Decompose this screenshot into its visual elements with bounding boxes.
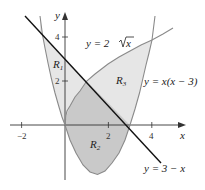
sqrt-radicand: x	[125, 37, 131, 49]
x-tick-label-neg2: −2	[17, 131, 27, 141]
y-tick-label-4: 4	[55, 32, 60, 42]
x-tick-label-4: 4	[149, 131, 154, 141]
y-axis-arrow	[62, 12, 68, 20]
sqrt-curve-label: y = 2	[85, 37, 110, 49]
parabola-label: y = x(x − 3)	[143, 75, 198, 88]
y-axis-label: y	[54, 9, 60, 21]
x-tick-label-2: 2	[106, 131, 111, 141]
y-tick-label-2: 2	[55, 76, 60, 86]
x-axis-arrow	[178, 122, 186, 128]
line-label: y = 3 − x	[143, 162, 185, 174]
x-axis-label: x	[179, 129, 185, 141]
diagram-canvas: −2 2 4 2 4 x y R1 R2 R3 y = 2 x y = x(x …	[0, 0, 205, 190]
